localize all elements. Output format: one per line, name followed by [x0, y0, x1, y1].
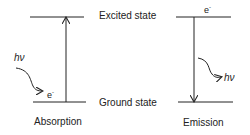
- emission-label: Emission: [183, 118, 224, 128]
- emission-photon-label: hν: [224, 73, 235, 83]
- emission-photon-wave: [198, 58, 221, 77]
- excited-state-label: Excited state: [99, 11, 156, 21]
- absorption-photon-label: hν: [14, 53, 25, 63]
- absorption-photon-wave: [16, 68, 42, 91]
- emission-electron-label: e-: [204, 6, 211, 15]
- ground-state-label: Ground state: [99, 98, 157, 108]
- absorption-electron-label: e-: [47, 91, 54, 100]
- absorption-label: Absorption: [34, 117, 82, 127]
